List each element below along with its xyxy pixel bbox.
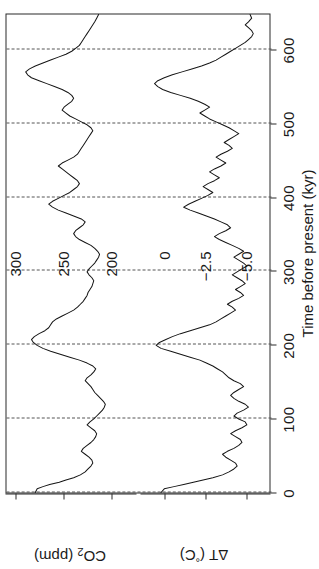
delta-t-axis-title: ΔT (°C)	[143, 547, 263, 564]
delta-t-axis-title-unit: C)	[179, 547, 195, 564]
co2-axis-ticklabel-0: 300	[6, 251, 23, 276]
delta-t-axis-tick-2	[246, 493, 247, 499]
co2-axis-tick-1	[63, 493, 64, 499]
delta-t-axis-title-main: ΔT (	[199, 547, 227, 564]
co2-axis-tick-0	[15, 493, 16, 499]
x-axis-ticklabel-500: 500	[279, 111, 296, 137]
x-axis-tick-500	[270, 123, 276, 124]
x-axis-ticklabel-600: 600	[279, 37, 296, 63]
plot-area	[5, 13, 270, 493]
x-axis-tick-400	[270, 197, 276, 198]
x-axis-ticklabel-200: 200	[279, 332, 296, 358]
co2-axis-title-subscript: 2	[77, 546, 83, 558]
delta-t-axis-ticklabel-1: −2.5	[196, 251, 213, 281]
co2-axis-spine	[5, 493, 136, 494]
co2-axis-title-unit: (ppm)	[34, 548, 77, 565]
x-axis-ticklabel-100: 100	[279, 406, 296, 432]
x-axis-ticklabel-300: 300	[279, 259, 296, 285]
data-series-group	[6, 14, 269, 492]
x-axis-tick-300	[270, 270, 276, 271]
x-axis-tick-100	[270, 418, 276, 419]
figure-root: 0100200300400500600 Time before present …	[0, 0, 319, 569]
x-axis-tick-0	[270, 492, 276, 493]
co2-axis-tick-2	[111, 493, 112, 499]
x-axis-tick-200	[270, 344, 276, 345]
co2-axis-title-main: CO	[83, 548, 106, 565]
rotated-chart-stage: 0100200300400500600 Time before present …	[0, 0, 319, 569]
delta-t-axis-tick-1	[205, 493, 206, 499]
x-axis-ticklabel-400: 400	[279, 185, 296, 211]
co2-axis-ticklabel-2: 200	[103, 251, 120, 276]
delta-t-axis-ticklabel-0: 0	[155, 251, 172, 259]
x-axis-tick-600	[270, 49, 276, 50]
co2-axis-title: CO2 (ppm)	[10, 546, 130, 565]
x-axis-title: Time before present (kyr)	[298, 13, 315, 493]
co2-axis-ticklabel-1: 250	[55, 251, 72, 276]
delta-t-axis-tick-0	[164, 493, 165, 499]
delta-t-axis-ticklabel-2: −5.0	[237, 251, 254, 281]
x-axis-ticklabel-0: 0	[279, 489, 296, 498]
